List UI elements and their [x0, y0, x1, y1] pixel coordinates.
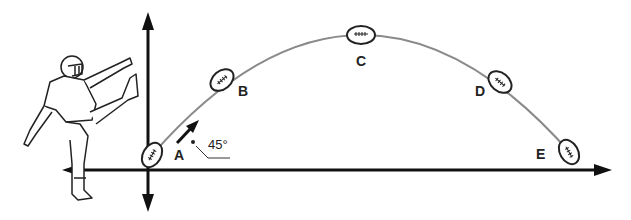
- football-b: [206, 65, 237, 96]
- angle-label: 45°: [208, 137, 228, 152]
- label-c: C: [356, 53, 366, 69]
- projectile-diagram: A B C D E 45°: [0, 0, 631, 220]
- arrow-down-icon: [142, 194, 154, 212]
- kicker-figure: [24, 56, 138, 200]
- label-e: E: [536, 146, 545, 162]
- label-b: B: [238, 83, 248, 99]
- football-c: [347, 26, 375, 44]
- arrow-up-icon: [142, 12, 154, 30]
- label-d: D: [475, 83, 485, 99]
- label-a: A: [174, 147, 184, 163]
- football-d: [484, 67, 515, 98]
- arrow-right-icon: [594, 164, 612, 176]
- diagram-canvas: [0, 0, 631, 220]
- vertical-axis: [142, 12, 154, 212]
